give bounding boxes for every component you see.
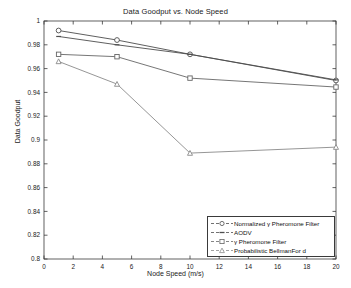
- x-tick-label: 20: [332, 263, 340, 270]
- x-tick-label: 2: [71, 263, 75, 270]
- x-tick-label: 6: [130, 263, 134, 270]
- legend-marker-square-icon: [210, 237, 234, 246]
- legend-label: Probabilistic BellmanFor d: [234, 246, 306, 255]
- chart-title: Data Goodput vs. Node Speed: [0, 7, 351, 16]
- y-tick-label: 1: [36, 17, 40, 24]
- legend-item: Normalized γ Pheromone Filter: [210, 219, 334, 228]
- y-tick-label: 0.8: [31, 255, 40, 262]
- legend-item: Probabilistic BellmanFor d: [210, 246, 334, 255]
- legend-marker-triangle-icon: [210, 246, 234, 255]
- y-tick-label: 0.94: [28, 89, 41, 96]
- y-tick-label: 0.86: [28, 184, 41, 191]
- chart-legend: Normalized γ Pheromone Filter AODV γ Phe…: [207, 216, 335, 257]
- series-line: [59, 54, 336, 87]
- data-point: [56, 28, 61, 33]
- y-tick-label: 0.84: [28, 208, 41, 215]
- legend-marker-circle-icon: [210, 219, 234, 228]
- legend-label: γ Pheromone Filter: [234, 237, 286, 246]
- legend-label: Normalized γ Pheromone Filter: [234, 219, 319, 228]
- x-tick-label: 14: [245, 263, 253, 270]
- y-tick-label: 0.92: [28, 112, 41, 119]
- data-point: [115, 55, 119, 59]
- data-point: [115, 81, 120, 86]
- data-point: [334, 145, 339, 150]
- x-tick-label: 0: [42, 263, 46, 270]
- y-tick-label: 0.9: [31, 136, 40, 143]
- x-tick-label: 8: [159, 263, 163, 270]
- x-tick-label: 10: [186, 263, 194, 270]
- data-point: [334, 85, 338, 89]
- series-line: [59, 61, 336, 153]
- data-point: [56, 59, 61, 64]
- y-axis-label: Data Goodput: [14, 67, 21, 177]
- legend-marker-dash-icon: [210, 228, 234, 237]
- y-tick-label: 0.88: [28, 160, 41, 167]
- y-tick-label: 0.96: [28, 65, 41, 72]
- x-tick-label: 12: [216, 263, 224, 270]
- data-point: [56, 52, 60, 56]
- y-tick-label: 0.98: [28, 41, 41, 48]
- chart-figure: Data Goodput vs. Node Speed Node Speed (…: [0, 0, 351, 288]
- legend-item: AODV: [210, 228, 334, 237]
- x-tick-label: 16: [274, 263, 282, 270]
- x-tick-label: 18: [303, 263, 311, 270]
- y-tick-label: 0.82: [28, 231, 41, 238]
- data-point: [188, 76, 192, 80]
- legend-item: γ Pheromone Filter: [210, 237, 334, 246]
- x-axis-label: Node Speed (m/s): [0, 270, 351, 277]
- x-tick-label: 4: [101, 263, 105, 270]
- data-point: [115, 38, 120, 43]
- legend-label: AODV: [234, 228, 252, 237]
